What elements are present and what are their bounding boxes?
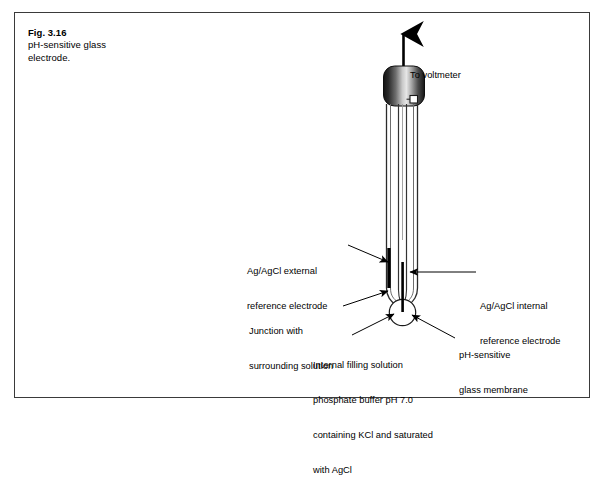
label-filling-solution: Internal filling solution phosphate buff…	[313, 337, 433, 479]
label-membrane-line-1: pH-sensitive	[459, 350, 528, 362]
label-to-voltmeter: To voltmeter	[410, 47, 461, 105]
label-internal-reference-line-1: Ag/AgCl internal	[480, 301, 560, 313]
internal-reference-electrode-bar	[401, 262, 404, 312]
label-filling-solution-line-2: phosphate buffer pH 7.0	[313, 395, 433, 407]
label-filling-solution-line-3: containing KCl and saturated	[313, 430, 433, 442]
label-external-reference-line-1: Ag/AgCl external	[247, 266, 327, 278]
label-membrane-line-2: glass membrane	[459, 385, 528, 397]
leader-filling-solution	[352, 314, 394, 335]
leader-external-reference	[348, 245, 388, 262]
label-filling-solution-line-4: with AgCl	[313, 465, 433, 477]
label-membrane: pH-sensitive glass membrane	[459, 327, 528, 420]
external-reference-electrode-bar	[387, 248, 390, 288]
label-filling-solution-line-1: Internal filling solution	[313, 360, 433, 372]
electrode-outer-tube	[387, 104, 418, 288]
leader-junction	[343, 291, 388, 306]
label-to-voltmeter-text: To voltmeter	[410, 70, 461, 82]
leader-membrane	[412, 315, 455, 338]
